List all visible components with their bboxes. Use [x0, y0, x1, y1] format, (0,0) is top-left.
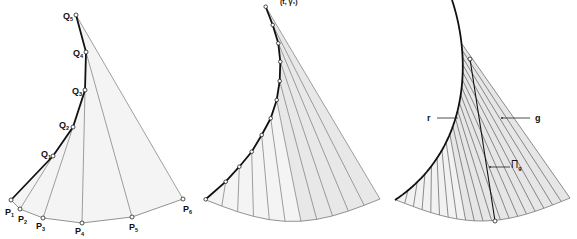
label-q3: Q3: [72, 86, 82, 97]
label-q4: Q4: [73, 48, 84, 59]
point-q2: [71, 125, 75, 129]
point-p4: [80, 221, 84, 225]
label-q1: Q1: [41, 149, 51, 160]
header-fragment: (t, γ₁): [280, 0, 298, 6]
label-p4: P4: [75, 226, 85, 237]
panel2-vertex: [279, 60, 283, 64]
label-p6: P6: [183, 204, 192, 215]
point-p1: [9, 198, 13, 202]
label-p3: P3: [36, 221, 45, 232]
label-p1: P1: [5, 207, 14, 218]
panel2-vertex: [278, 79, 282, 83]
diagram-canvas: Q5 Q4 Q3 Q2 Q1 P1 P2 P3 P4 P5 P6 (t, γ₁)…: [0, 0, 577, 239]
panel-3-smooth-developable: [395, 0, 570, 223]
panel1-face-fill: [11, 15, 183, 223]
point-p3: [41, 216, 45, 220]
panel2-vertex: [224, 180, 228, 184]
panel2-vertex: [264, 5, 268, 9]
panel3-point-on-arc: [493, 219, 497, 223]
label-q2: Q2: [59, 120, 69, 131]
point-q4: [84, 50, 88, 54]
label-r: r: [427, 113, 431, 123]
panel2-vertex: [271, 23, 275, 27]
label-g: g: [535, 113, 541, 123]
label-p2: P2: [18, 214, 27, 225]
panel2-vertex: [260, 133, 264, 137]
point-p6: [181, 197, 185, 201]
panel2-vertex: [277, 42, 281, 46]
label-q5: Q5: [63, 11, 73, 22]
panel2-vertex: [250, 150, 254, 154]
point-q1: [51, 154, 55, 158]
point-p5: [130, 215, 134, 219]
panel2-vertex: [275, 98, 279, 102]
point-q3: [83, 88, 87, 92]
pointer-pi-dot: [489, 166, 491, 168]
panel2-vertex: [238, 165, 242, 169]
label-p5: P5: [129, 222, 138, 233]
panel3-point-on-curve: [468, 57, 472, 61]
pointer-g-dot: [501, 117, 503, 119]
point-p2: [18, 207, 22, 211]
panel-2-refined-developable: [204, 5, 380, 221]
panel-1-polygonal-developable: Q5 Q4 Q3 Q2 Q1 P1 P2 P3 P4 P5 P6: [5, 11, 192, 237]
panel2-vertex: [269, 117, 273, 121]
panel2-vertex: [204, 198, 208, 202]
point-q5: [74, 13, 78, 17]
